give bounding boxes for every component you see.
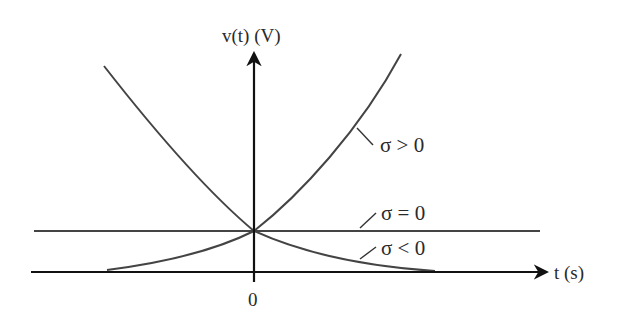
sigma-negative-leader (360, 247, 376, 259)
x-axis-label: t (s) (554, 262, 584, 284)
sigma-positive-label: σ > 0 (380, 133, 424, 157)
y-axis-label: v(t) (V) (222, 25, 281, 47)
sigma-zero-label: σ = 0 (381, 201, 425, 225)
origin-tick-label: 0 (248, 289, 258, 310)
sigma-positive-leader (357, 128, 373, 145)
sigma-positive-curve (104, 54, 401, 231)
exponential-signal-diagram: v(t) (V) t (s) 0 σ > 0 σ = 0 σ < 0 (0, 0, 629, 328)
sigma-negative-label: σ < 0 (381, 236, 425, 260)
sigma-zero-leader (360, 213, 376, 228)
